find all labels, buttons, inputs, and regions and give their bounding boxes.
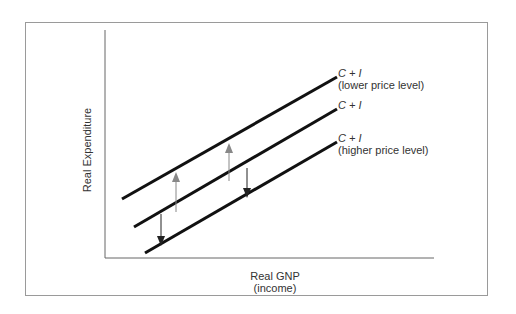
y-axis-label: Real Expenditure [81, 108, 93, 192]
arrow-up-icon [225, 143, 233, 181]
x-axis-label: Real GNP (income) [235, 270, 315, 294]
arrow-up-icon [172, 172, 180, 212]
label-higher-price-level: C + I (higher price level) [338, 132, 428, 156]
diagram-canvas [0, 0, 516, 314]
label-middle: C + I [338, 99, 362, 111]
label-lower-price-level: C + I (lower price level) [338, 67, 424, 91]
line-middle [134, 109, 337, 227]
line-higher-price-level [145, 142, 337, 253]
